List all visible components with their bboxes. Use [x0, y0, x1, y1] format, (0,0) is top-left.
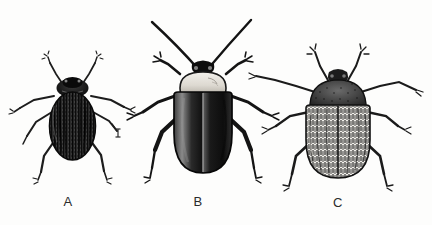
beetle-plate-drawing	[0, 0, 432, 225]
figure-label-b: B	[186, 194, 210, 209]
illustration-plate: A B C	[0, 0, 432, 225]
beetle-c-eye-right	[342, 74, 346, 78]
beetle-b-eye-right	[208, 66, 212, 70]
beetle-c-elytra	[306, 105, 370, 178]
beetle-b-elytra	[174, 92, 232, 173]
beetle-a-eye-right	[78, 80, 81, 83]
beetle-b-pronotum	[180, 72, 226, 95]
figure-label-a: A	[56, 194, 80, 209]
beetle-a-elytra	[50, 92, 96, 160]
beetle-a-head	[63, 77, 83, 88]
beetle-b-eye-left	[194, 66, 198, 70]
beetle-c-eye-left	[330, 74, 334, 78]
figure-label-c: C	[326, 195, 350, 210]
beetle-a-eye-left	[65, 80, 68, 83]
